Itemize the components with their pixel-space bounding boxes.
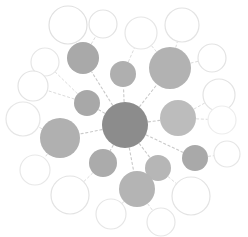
graph-edge — [122, 202, 123, 203]
graph-edge — [91, 37, 95, 44]
graph-edge — [139, 144, 149, 158]
leaf-node[interactable] — [165, 8, 199, 42]
graph-edge — [148, 120, 159, 122]
graph-edge — [191, 61, 198, 63]
graph-edge — [140, 85, 157, 107]
primary-node[interactable] — [67, 42, 99, 74]
network-graph — [0, 0, 248, 237]
graph-edge — [80, 130, 102, 134]
primary-node[interactable] — [119, 171, 155, 207]
graph-edge — [45, 154, 48, 158]
leaf-node[interactable] — [6, 102, 40, 136]
leaf-node[interactable] — [172, 177, 210, 215]
leaf-node[interactable] — [214, 141, 240, 167]
primary-node[interactable] — [160, 100, 196, 136]
graph-edge — [194, 103, 204, 109]
graph-edge — [129, 148, 133, 171]
graph-edge — [146, 135, 183, 152]
graph-edge — [208, 156, 213, 157]
primary-node[interactable] — [74, 90, 100, 116]
graph-edge — [39, 127, 42, 129]
leaf-node[interactable] — [49, 6, 87, 44]
graph-edge — [152, 46, 157, 52]
leaf-node[interactable] — [147, 208, 175, 236]
nodes-layer — [6, 6, 240, 236]
graph-edge — [168, 177, 176, 184]
leaf-node[interactable] — [20, 155, 50, 185]
leaf-node[interactable] — [125, 17, 157, 49]
leaf-node[interactable] — [96, 199, 126, 229]
leaf-node[interactable] — [89, 10, 117, 38]
graph-edge — [48, 91, 74, 99]
graph-edge — [110, 145, 113, 150]
leaf-node[interactable] — [51, 176, 89, 214]
primary-node[interactable] — [110, 61, 136, 87]
primary-node[interactable] — [89, 149, 117, 177]
graph-edge — [148, 204, 153, 210]
primary-node[interactable] — [40, 118, 80, 158]
hub-node[interactable] — [102, 102, 148, 148]
leaf-node[interactable] — [198, 44, 226, 72]
graph-edge — [196, 119, 207, 120]
graph-edge — [176, 42, 178, 47]
diagram-canvas — [0, 0, 248, 237]
primary-node[interactable] — [149, 47, 191, 89]
graph-edge — [99, 110, 105, 113]
leaf-node[interactable] — [208, 106, 236, 134]
leaf-node[interactable] — [18, 71, 48, 101]
primary-node[interactable] — [182, 145, 208, 171]
graph-edge — [55, 72, 77, 93]
graph-edge — [124, 87, 125, 101]
graph-edge — [128, 48, 134, 62]
graph-edge — [84, 173, 93, 181]
